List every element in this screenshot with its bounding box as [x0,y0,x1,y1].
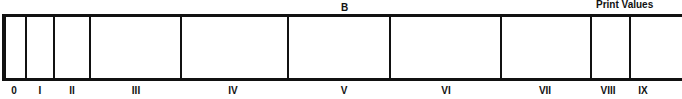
segment-label-0: 0 [11,86,17,96]
segment-label-i: I [39,86,42,96]
print-values-label: Print Values [596,0,653,10]
segment-divider [287,14,289,81]
segment-label-iv: IV [228,86,237,96]
segment-divider [25,14,27,81]
segment-divider [89,14,91,81]
segment-divider [180,14,182,81]
segment-label-v: V [341,86,348,96]
segmented-bar [2,14,682,81]
segment-divider [389,14,391,81]
segment-label-iii: III [132,86,140,96]
segment-label-ix: IX [638,86,647,96]
diagram-heading: B [341,3,348,13]
segment-divider [500,14,502,81]
segment-label-viii: VIII [600,86,615,96]
segment-divider [53,14,55,81]
segment-label-vi: VI [441,86,450,96]
segment-divider [629,14,631,81]
segment-divider [590,14,592,81]
segment-label-vii: VII [539,86,551,96]
segment-label-ii: II [69,86,75,96]
